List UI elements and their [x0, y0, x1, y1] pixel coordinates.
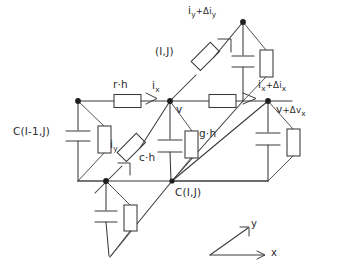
resistor-shunt-center — [185, 131, 198, 158]
wire-diag-lower-b — [140, 101, 170, 148]
label-current-ix-out: ix+Δix — [258, 79, 286, 93]
label-capacitance-ch: c·h — [139, 152, 155, 163]
horizontal-x-branch — [78, 95, 292, 108]
axis-indicator — [210, 227, 265, 259]
label-voltage-out: v+Δvx — [276, 104, 306, 118]
resistor-r-h — [114, 95, 141, 108]
node-center — [167, 98, 173, 104]
arrow-current-iy — [118, 163, 130, 175]
label-axis-y: y — [251, 219, 257, 229]
node-bottom-mid — [169, 178, 174, 183]
wire-left-res-top-lead — [78, 101, 104, 126]
circuit-svg — [0, 0, 345, 278]
wire-diag-upper-a — [170, 75, 196, 101]
node-top — [240, 19, 246, 25]
circuit-diagram: iy+Δiy (I,J) r·h ix ix+Δix v+Δvx v g·h c… — [0, 0, 345, 278]
wire-diag-lower-a — [95, 166, 122, 193]
wire-diag-mid-to-bottom — [172, 101, 243, 181]
resistor-shunt-bottom — [124, 205, 137, 231]
resistor-series-right — [209, 95, 236, 108]
wire-right-res-bottom-lead — [268, 156, 293, 181]
label-conductance-gh: g·h — [199, 128, 216, 139]
label-capacitor-left: C(I-1,J) — [13, 126, 50, 137]
wire-left-res-bottom-lead — [78, 153, 104, 181]
wire-bottom-res-bottom-lead — [110, 231, 130, 257]
wire-center-res-bottom-lead — [172, 158, 191, 181]
label-axis-x: x — [271, 248, 277, 258]
resistor-shunt-top — [260, 50, 273, 77]
resistor-shunt-right — [287, 129, 300, 156]
label-resistor-r-h: r·h — [113, 79, 128, 90]
wire-bottom-res-top-lead — [106, 181, 130, 205]
wire-center-shunt-bottom — [170, 152, 171, 181]
label-node-voltage: v — [176, 104, 182, 115]
wire-bottom-shunt-bottom — [106, 222, 109, 256]
axis-y-line — [210, 228, 248, 255]
arrow-current-ix — [146, 93, 157, 104]
node-right — [265, 98, 271, 104]
resistor-diagonal-ij — [191, 42, 219, 70]
label-cell-index: (I,J) — [155, 46, 174, 57]
arrowhead-ix — [146, 93, 157, 104]
shunt-left — [66, 101, 111, 181]
label-current-iy: iy — [110, 139, 118, 153]
label-current-iy-out: iy+Δiy — [188, 5, 216, 19]
node-left — [75, 98, 81, 104]
wire-top-res-top-lead — [243, 22, 266, 50]
shunt-bottom — [95, 181, 137, 257]
label-current-ix: ix — [152, 80, 160, 94]
label-capacitor-center: C(I,J) — [175, 187, 201, 198]
arrowhead-iy — [118, 163, 130, 175]
node-bottom-left — [103, 178, 109, 184]
